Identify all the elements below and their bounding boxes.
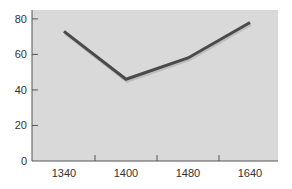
x-tick-label: 1400 (114, 167, 138, 179)
plot-area (32, 10, 278, 161)
y-tick-label: 40 (15, 84, 27, 96)
x-tick-label: 1480 (176, 167, 200, 179)
x-tick-label: 1340 (52, 167, 76, 179)
y-tick-label: 60 (15, 48, 27, 60)
y-tick-label: 20 (15, 119, 27, 131)
y-tick-label: 80 (15, 13, 27, 25)
x-tick-label: 1640 (238, 167, 262, 179)
y-tick-label: 0 (21, 155, 27, 167)
line-chart: 020406080 1340140014801640 (0, 0, 292, 189)
